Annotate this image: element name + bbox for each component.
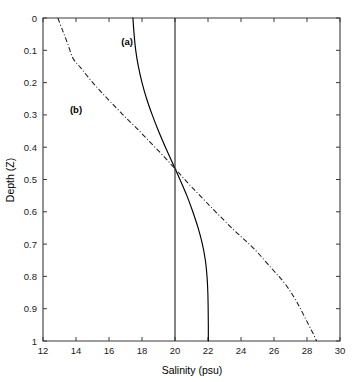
axes-frame [43, 18, 340, 341]
x-tick-label: 20 [170, 345, 181, 356]
x-tick-label: 12 [38, 345, 49, 356]
x-tick-label: 14 [71, 345, 82, 356]
y-tick-label: 0.8 [24, 271, 37, 282]
y-tick-label: 0.2 [24, 77, 37, 88]
x-axis-title: Salinity (psu) [162, 364, 223, 376]
x-tick-label: 22 [203, 345, 214, 356]
series-curve-b [58, 18, 317, 341]
y-tick-label: 0.3 [24, 109, 37, 120]
x-tick-label: 28 [302, 345, 313, 356]
y-tick-label: 0.7 [24, 239, 37, 250]
x-tick-label: 26 [269, 345, 280, 356]
y-tick-label: 0.4 [24, 142, 37, 153]
curve-label-b: (b) [70, 104, 82, 115]
y-tick-label: 0 [32, 13, 37, 24]
data-series-group [58, 18, 317, 341]
y-axis-title: Depth (Z) [4, 158, 16, 202]
curve-annotations: (a)(b) [70, 36, 133, 115]
x-tick-label: 16 [104, 345, 115, 356]
y-axis-ticks: 00.10.20.30.40.50.60.70.80.91 [24, 13, 340, 347]
series-curve-a [133, 18, 208, 341]
y-tick-label: 0.5 [24, 174, 37, 185]
curve-label-a: (a) [121, 36, 133, 47]
y-tick-label: 0.9 [24, 303, 37, 314]
x-tick-label: 24 [236, 345, 247, 356]
salinity-depth-figure: 12141618202224262830 00.10.20.30.40.50.6… [0, 0, 364, 382]
y-tick-label: 0.1 [24, 45, 37, 56]
x-tick-label: 18 [137, 345, 148, 356]
y-tick-label: 0.6 [24, 206, 37, 217]
x-tick-label: 30 [335, 345, 346, 356]
y-tick-label: 1 [32, 336, 37, 347]
chart-canvas: 12141618202224262830 00.10.20.30.40.50.6… [0, 0, 364, 382]
